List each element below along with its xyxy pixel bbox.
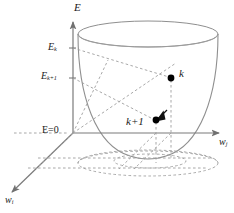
energy-axis-label: E	[74, 2, 81, 13]
tick-label-E-k-plus-1-subscript: k+1	[47, 74, 56, 81]
axis-group	[12, 22, 219, 192]
point-k-plus-1-dot[interactable]	[153, 117, 160, 124]
wj-axis-label: wj	[219, 137, 227, 148]
construction-lines	[14, 48, 218, 176]
interior-ray-right	[73, 63, 176, 133]
tick-label-E-zero: E=0	[42, 125, 59, 135]
level-line-Ek1	[73, 78, 153, 119]
tick-label-E-k-subscript: k	[54, 45, 57, 52]
bowl-left-wall	[78, 34, 130, 156]
tick-label-E-k-plus-1: Ek+1	[41, 71, 57, 82]
bowl-right-wall	[166, 34, 218, 156]
wi-axis-label: wi	[5, 195, 13, 206]
wj-axis-label-subscript: j	[226, 140, 228, 147]
point-k-label: k	[179, 68, 184, 79]
error-surface-figure: E Ek Ek+1 E=0 wj wi k k+1	[0, 0, 234, 213]
figure-canvas	[0, 0, 234, 213]
wi-axis-label-subscript: i	[12, 198, 14, 205]
tick-label-E-k: Ek	[48, 42, 57, 53]
level-line-Ek	[73, 48, 169, 77]
interior-ray-left	[73, 60, 108, 133]
point-k-dot[interactable]	[168, 75, 175, 82]
point-k-plus-1-label: k+1	[126, 116, 144, 127]
